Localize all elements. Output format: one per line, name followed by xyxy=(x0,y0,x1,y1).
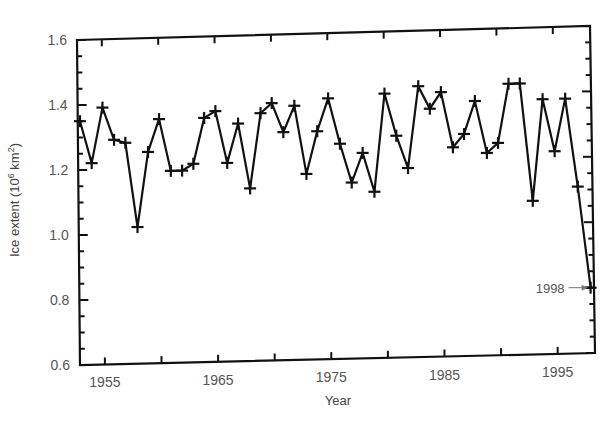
svg-text:Ice extent (106 km2): Ice extent (106 km2) xyxy=(6,143,22,257)
x-tick-label-1965: 1965 xyxy=(203,372,234,388)
data-point-1982 xyxy=(402,162,414,174)
x-tick-label-1995: 1995 xyxy=(542,364,573,380)
data-point-1961 xyxy=(165,165,177,177)
y-tick-label-1.0: 1.0 xyxy=(49,227,69,243)
x-tick-label-1985: 1985 xyxy=(429,367,460,383)
x-axis-title: Year xyxy=(325,393,352,408)
data-point-1967 xyxy=(232,118,244,130)
data-point-1960 xyxy=(153,113,165,125)
data-point-1957 xyxy=(119,137,131,149)
data-point-1968 xyxy=(244,182,256,194)
y-tick-label-1.2: 1.2 xyxy=(49,162,69,178)
data-point-1973 xyxy=(300,168,312,180)
data-point-1977 xyxy=(346,177,358,189)
data-point-1958 xyxy=(132,221,144,233)
data-point-1964 xyxy=(198,112,210,124)
data-point-1980 xyxy=(378,88,390,100)
data-point-1978 xyxy=(357,147,369,159)
data-point-1975 xyxy=(322,92,334,104)
data-point-1972 xyxy=(288,100,300,112)
data-point-1963 xyxy=(187,158,199,170)
data-point-1981 xyxy=(390,130,402,142)
annotation-label: 1998 xyxy=(536,281,565,296)
ice-extent-chart: 195519651975198519950.60.81.01.21.41.6 1… xyxy=(0,0,614,440)
data-point-1974 xyxy=(311,125,323,137)
data-point-1966 xyxy=(221,157,233,169)
plot-frame xyxy=(77,26,595,365)
data-point-1953 xyxy=(74,115,86,127)
x-tick-label-1975: 1975 xyxy=(316,369,347,385)
data-point-1959 xyxy=(142,146,154,158)
y-tick-label-1.6: 1.6 xyxy=(48,32,68,48)
data-point-1956 xyxy=(108,134,120,146)
data-point-1954 xyxy=(86,157,98,169)
tick-labels: 195519651975198519950.60.81.01.21.41.6 xyxy=(48,32,574,390)
axis-ticks xyxy=(77,26,595,365)
data-point-1965 xyxy=(209,105,221,117)
data-point-1976 xyxy=(334,138,346,150)
annotation-1998: 1998 xyxy=(536,281,588,296)
y-tick-label-0.6: 0.6 xyxy=(51,357,71,373)
y-tick-label-0.8: 0.8 xyxy=(50,292,70,308)
y-axis-title: Ice extent (106 km2) xyxy=(6,143,22,257)
data-point-1994 xyxy=(537,93,549,105)
data-point-1985 xyxy=(435,86,447,98)
data-point-1993 xyxy=(527,195,539,207)
data-point-1955 xyxy=(96,102,108,114)
data-series xyxy=(74,77,597,293)
data-point-1988 xyxy=(469,95,481,107)
data-point-1996 xyxy=(559,93,571,105)
y-tick-label-1.4: 1.4 xyxy=(48,97,68,113)
x-tick-label-1955: 1955 xyxy=(89,374,120,390)
data-point-1962 xyxy=(176,165,188,177)
data-point-1984 xyxy=(424,103,436,115)
data-point-1991 xyxy=(502,78,514,90)
data-point-1995 xyxy=(549,145,561,157)
data-point-1971 xyxy=(277,126,289,138)
data-point-1983 xyxy=(412,80,424,92)
data-point-1997 xyxy=(572,181,584,193)
data-point-1992 xyxy=(514,77,526,89)
data-point-1979 xyxy=(368,186,380,198)
